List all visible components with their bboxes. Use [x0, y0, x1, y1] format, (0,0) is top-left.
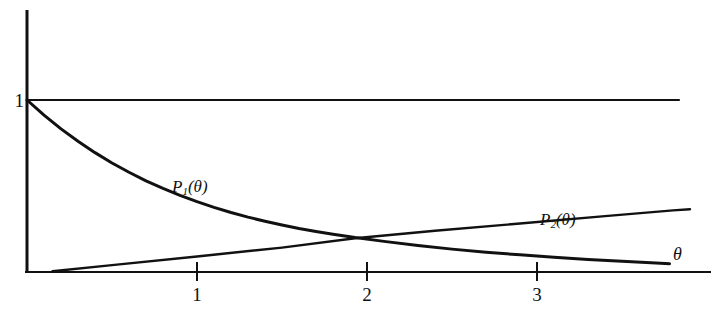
plot-canvas: [0, 0, 711, 313]
x-tick-label-2: 2: [352, 285, 382, 304]
x-tick-label-3: 3: [522, 285, 552, 304]
p2-label-base: P: [540, 210, 550, 229]
x-axis-label-theta: θ: [673, 245, 682, 263]
y-tick-label-1: 1: [0, 91, 24, 110]
figure-container: 1 1 2 3 P1(θ) P2(θ) θ: [0, 0, 711, 313]
x-tick-label-1: 1: [182, 285, 212, 304]
p2-curve-label: P2(θ): [540, 211, 576, 230]
p1-label-base: P: [172, 177, 182, 196]
p1-curve-label: P1(θ): [172, 178, 208, 197]
p1-label-arg: (θ): [188, 177, 208, 196]
p2-label-arg: (θ): [556, 210, 576, 229]
